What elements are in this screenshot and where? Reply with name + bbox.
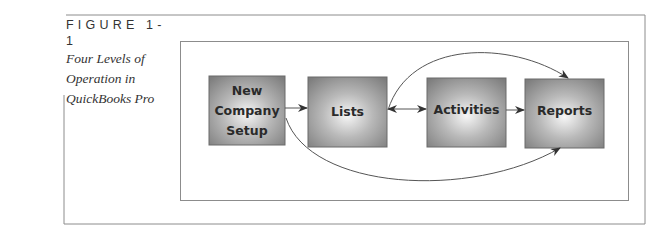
label-line: Lists — [331, 102, 364, 122]
label-line: Activities — [434, 100, 500, 120]
label-new-company-setup: New Company Setup — [209, 76, 285, 145]
figure-title-line: QuickBooks Pro — [66, 89, 176, 109]
label-line: Company — [214, 101, 279, 121]
figure-number: FIGURE 1-1 — [66, 17, 176, 49]
label-line: New — [232, 81, 263, 101]
figure-caption: FIGURE 1-1 Four Levels of Operation in Q… — [66, 17, 176, 109]
figure-title-line: Four Levels of — [66, 49, 176, 69]
label-lists: Lists — [308, 77, 387, 147]
figure-title-line: Operation in — [66, 69, 176, 89]
label-reports: Reports — [525, 79, 604, 143]
label-line: Reports — [537, 101, 592, 121]
label-activities: Activities — [427, 78, 506, 142]
label-line: Setup — [226, 121, 267, 141]
